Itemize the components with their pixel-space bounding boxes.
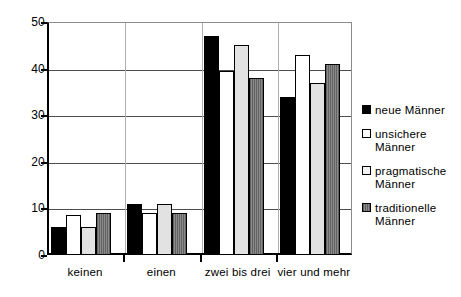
bar-chart: 01020304050 keineneinenzwei bis dreivier… — [0, 0, 461, 297]
legend-entry: pragmatische Männer — [362, 165, 461, 191]
y-tick-label: 30 — [5, 109, 45, 121]
bar — [81, 227, 96, 255]
y-tick-mark — [41, 255, 47, 257]
y-tick-label: 40 — [5, 63, 45, 75]
bar — [66, 215, 81, 255]
legend-swatch-icon — [362, 203, 371, 212]
legend-swatch-icon — [362, 105, 371, 114]
bar — [280, 97, 295, 255]
bar-series-layer — [47, 22, 352, 255]
x-tick-mark — [276, 255, 278, 262]
x-tick-label: vier und mehr — [276, 266, 352, 279]
chart-legend: neue Männerunsichere Männerpragmatische … — [362, 104, 461, 239]
bar — [157, 204, 172, 255]
bar — [310, 83, 325, 255]
legend-label: traditionelle Männer — [375, 202, 461, 228]
bar — [219, 71, 234, 255]
legend-entry: unsichere Männer — [362, 128, 461, 154]
legend-label: unsichere Männer — [375, 128, 461, 154]
legend-swatch-icon — [362, 166, 371, 175]
y-tick-label: 0 — [5, 249, 45, 261]
y-tick-label: 20 — [5, 156, 45, 168]
bar — [127, 204, 142, 255]
x-tick-mark — [200, 255, 202, 262]
x-tick-mark — [123, 255, 125, 262]
legend-entry: traditionelle Männer — [362, 202, 461, 228]
y-axis: 01020304050 — [0, 0, 45, 297]
bar — [295, 55, 310, 255]
x-tick-label: einen — [123, 266, 199, 279]
bar — [96, 213, 111, 255]
legend-swatch-icon — [362, 129, 371, 138]
bar — [249, 78, 264, 255]
legend-label: pragmatische Männer — [375, 165, 461, 191]
x-tick-label: keinen — [47, 266, 123, 279]
bar — [204, 36, 219, 255]
x-tick-label: zwei bis drei — [200, 266, 276, 279]
y-tick-label: 50 — [5, 16, 45, 28]
bar — [51, 227, 66, 255]
bar — [325, 64, 340, 255]
bar — [172, 213, 187, 255]
legend-entry: neue Männer — [362, 104, 461, 117]
bar — [234, 45, 249, 255]
y-tick-label: 10 — [5, 202, 45, 214]
bar — [142, 213, 157, 255]
legend-label: neue Männer — [375, 104, 461, 117]
